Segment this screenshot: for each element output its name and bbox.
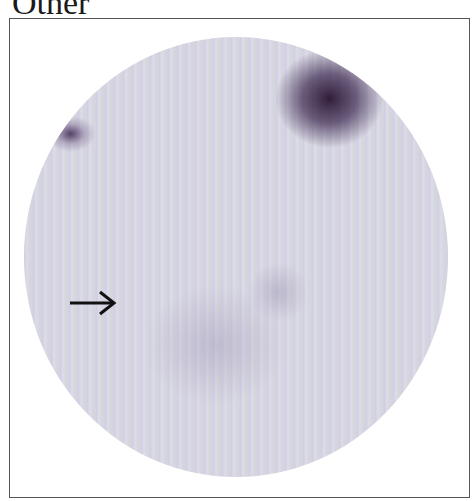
arrow-right-icon — [58, 288, 118, 318]
image-frame — [9, 18, 470, 498]
panel-label: Other — [12, 0, 89, 20]
scintigraphy-image — [24, 37, 448, 477]
